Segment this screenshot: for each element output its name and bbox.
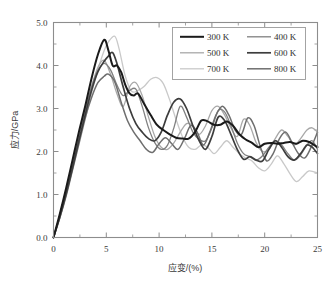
x-tick-labels: 0510152025 (51, 244, 322, 254)
y-tick-label: 1.0 (36, 190, 48, 200)
x-tick-label: 10 (155, 244, 165, 254)
y-tick-labels: 0.01.02.03.04.05.0 (36, 18, 48, 243)
legend-label-400-k: 400 K (274, 32, 297, 42)
legend-label-800-k: 800 K (274, 64, 297, 74)
legend: 300 K400 K500 K600 K700 K800 K (173, 28, 306, 80)
y-tick-label: 3.0 (36, 104, 48, 114)
legend-label-300-k: 300 K (207, 32, 230, 42)
legend-label-700-k: 700 K (207, 64, 230, 74)
stress-strain-figure: 0510152025 0.01.02.03.04.05.0 应变/(%) 应力/… (0, 0, 336, 289)
x-tick-label: 15 (207, 244, 217, 254)
y-tick-label: 4.0 (36, 61, 48, 71)
y-tick-label: 0.0 (36, 233, 48, 243)
legend-label-600-k: 600 K (274, 48, 297, 58)
x-tick-label: 20 (260, 244, 270, 254)
x-tick-label: 5 (104, 244, 109, 254)
legend-label-500-k: 500 K (207, 48, 230, 58)
x-axis-title: 应变/(%) (168, 262, 203, 273)
x-tick-label: 0 (51, 244, 56, 254)
y-axis-title: 应力/GPa (9, 111, 20, 150)
chart-canvas: 0510152025 0.01.02.03.04.05.0 应变/(%) 应力/… (0, 0, 336, 289)
y-tick-label: 2.0 (36, 147, 48, 157)
x-tick-label: 25 (313, 244, 323, 254)
y-tick-label: 5.0 (36, 18, 48, 28)
